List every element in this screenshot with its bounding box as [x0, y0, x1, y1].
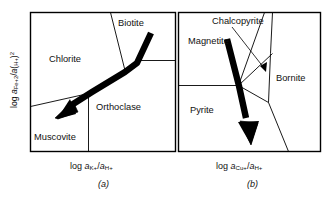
field-label-pyrite: Pyrite [190, 106, 214, 115]
y-axis-label-text: log aFe+2/a(H+)2 [10, 52, 20, 108]
panel-b-tag: (b) [247, 180, 258, 189]
field-label-chlorite: Chlorite [49, 55, 81, 64]
y-axis-label: log aFe+2/a(H+)2 [4, 20, 26, 140]
field-label-biotite: Biotite [118, 19, 144, 28]
panel-b-x-axis-label: log aCu+/aH+ [216, 162, 262, 171]
diagram-svg [0, 0, 334, 200]
field-label-bornite: Bornite [276, 74, 305, 83]
field-label-muscovite: Muscovite [34, 133, 76, 142]
figure-canvas: log aFe+2/a(H+)2 Chlorite Biotite Orthoc… [0, 0, 334, 200]
field-label-orthoclase: Orthoclase [96, 103, 141, 112]
panel-a-x-axis-label: log aK+/aH+ [70, 162, 113, 171]
field-label-magnetite: Magnetite [188, 37, 229, 46]
panel-a-tag: (a) [98, 180, 109, 189]
field-label-chalcopyrite: Chalcopyrite [212, 17, 264, 26]
